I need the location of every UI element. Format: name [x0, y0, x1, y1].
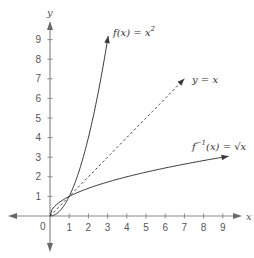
- x-tick-label: 1: [66, 222, 72, 233]
- label-inverse-main: (x) = √x: [206, 141, 247, 152]
- x-tick-label: 6: [162, 222, 168, 233]
- series-parabola-line: [50, 36, 108, 216]
- y-tick-label: 7: [35, 73, 41, 84]
- series-identity-arrow: [178, 79, 185, 86]
- x-axis-label: x: [246, 211, 252, 222]
- axes: xy0: [8, 7, 252, 252]
- x-tick-label: 4: [124, 222, 130, 233]
- series-inverse-arrow: [221, 155, 228, 161]
- label-parabola: f(x) = x2: [112, 25, 156, 38]
- series-inverse-line: [50, 156, 229, 216]
- y-tick-label: 5: [35, 113, 41, 124]
- label-identity: y = x: [191, 74, 218, 85]
- y-tick-label: 1: [35, 191, 41, 202]
- y-tick-label: 4: [35, 132, 41, 143]
- origin-label: 0: [40, 221, 46, 232]
- y-tick-label: 3: [35, 152, 41, 163]
- y-tick-label: 6: [35, 93, 41, 104]
- label-inverse: f−1(x) = √x: [191, 139, 247, 152]
- y-axis-up-arrow: [47, 21, 53, 30]
- label-parabola-exponent: 2: [150, 25, 156, 33]
- y-tick-label: 8: [35, 54, 41, 65]
- x-axis-right-arrow: [233, 213, 242, 219]
- x-tick-label: 9: [220, 222, 226, 233]
- y-axis-label: y: [46, 7, 53, 18]
- label-inverse-exponent: −1: [196, 139, 206, 147]
- x-tick-label: 2: [86, 222, 92, 233]
- x-tick-label: 5: [143, 222, 149, 233]
- chart: xy0 123456789123456789 f(x) = x2y = xf−1…: [0, 0, 254, 258]
- curves: [50, 36, 229, 216]
- y-axis-down-arrow: [47, 243, 53, 252]
- x-tick-label: 7: [182, 222, 188, 233]
- labels: f(x) = x2y = xf−1(x) = √x: [112, 25, 247, 152]
- y-tick-label: 9: [35, 34, 41, 45]
- series-parabola-arrow: [104, 36, 110, 43]
- x-axis-left-arrow: [8, 213, 17, 219]
- y-tick-label: 2: [35, 171, 41, 182]
- x-tick-label: 8: [201, 222, 207, 233]
- x-tick-label: 3: [105, 222, 111, 233]
